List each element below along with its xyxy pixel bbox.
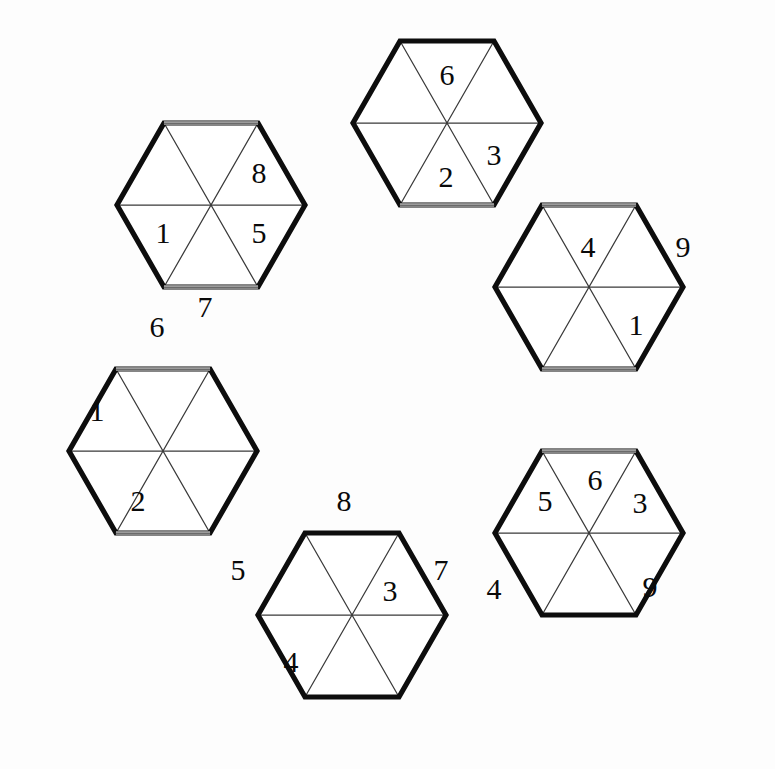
cell-digit: 6 [150,310,165,343]
puzzle-canvas: 85163249167128537445639 [0,0,775,769]
cell-digit: 7 [198,290,213,323]
cell-digit: 9 [643,570,658,603]
cell-digit: 3 [633,486,648,519]
cell-digit: 5 [231,553,246,586]
cell-digit: 8 [252,156,267,189]
cell-digit: 4 [487,572,502,605]
cell-digit: 8 [337,484,352,517]
cell-digit: 6 [440,58,455,91]
cell-digit: 4 [284,645,299,678]
cell-digit: 3 [383,574,398,607]
cell-digit: 6 [588,463,603,496]
cell-digit: 9 [676,230,691,263]
cell-digit: 5 [252,216,267,249]
cell-digit: 3 [487,138,502,171]
cell-digit: 2 [439,160,454,193]
cell-digit: 1 [90,394,105,427]
star-outline-corrected: 85163249167128537445639 [0,0,775,769]
cell-digit: 1 [629,308,644,341]
cell-digit: 2 [131,484,146,517]
cell-digit: 4 [581,230,596,263]
cell-digit: 1 [156,216,171,249]
cell-digit: 7 [434,553,449,586]
puzzle-figure: 85163249167128537445639 [0,0,775,769]
cell-digit: 5 [538,484,553,517]
